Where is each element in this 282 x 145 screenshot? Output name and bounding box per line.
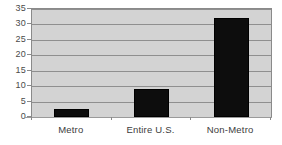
bars-layer — [32, 9, 271, 117]
plot-area — [31, 8, 272, 118]
y-axis-tick-label: 20 — [16, 50, 26, 59]
y-axis-tick-mark — [27, 85, 31, 86]
x-axis-ticks — [31, 117, 272, 121]
y-axis-tick-mark — [27, 101, 31, 102]
y-axis-tick-mark — [27, 39, 31, 40]
y-axis-tick-mark — [27, 23, 31, 24]
x-axis-tick-mark — [31, 117, 32, 120]
y-axis-tick-mark — [27, 70, 31, 71]
x-axis-tick-mark — [190, 117, 191, 120]
y-axis-tick-label: 15 — [16, 65, 26, 74]
bar — [54, 109, 89, 117]
y-axis-tick-label: 35 — [16, 4, 26, 13]
x-axis-category-label: Metro — [58, 124, 83, 136]
y-axis-tick-mark — [27, 116, 31, 117]
y-axis-tick-label: 30 — [16, 19, 26, 28]
bar — [214, 18, 249, 117]
bar-chart: 05101520253035 MetroEntire U.S.Non-Metro — [0, 0, 282, 145]
y-axis-tick-label: 10 — [16, 81, 26, 90]
x-axis-category-label: Entire U.S. — [126, 124, 174, 136]
y-axis-tick-mark — [27, 8, 31, 9]
y-axis-tick-label: 0 — [21, 112, 26, 121]
x-axis-tick-mark — [111, 117, 112, 120]
y-axis: 05101520253035 — [0, 0, 30, 145]
y-axis-tick-label: 5 — [21, 96, 26, 105]
y-axis-tick-mark — [27, 54, 31, 55]
x-axis-category-label: Non-Metro — [207, 124, 254, 136]
bar — [134, 89, 169, 117]
x-axis-labels: MetroEntire U.S.Non-Metro — [31, 124, 270, 142]
x-axis-tick-mark — [270, 117, 271, 120]
y-axis-tick-label: 25 — [16, 34, 26, 43]
